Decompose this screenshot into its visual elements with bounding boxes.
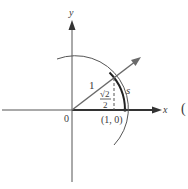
origin-label: 0	[64, 113, 69, 124]
y-axis-arrow-icon	[69, 20, 76, 30]
right-paren: (	[181, 101, 186, 117]
arc-s	[110, 73, 126, 111]
unit-circle-diagram: y x 0 1 √2 2 s (1, 0) (	[0, 0, 188, 189]
point-1-0-label: (1, 0)	[101, 114, 123, 126]
unit-circle-arc	[57, 56, 128, 145]
arc-s-label: s	[126, 84, 130, 96]
y-axis	[69, 20, 76, 182]
radius-label: 1	[89, 79, 95, 91]
sqrt2-numerator: √2	[100, 89, 109, 99]
sqrt2-denominator: 2	[103, 100, 108, 110]
y-axis-label: y	[68, 7, 74, 18]
x-axis-label: x	[162, 104, 168, 115]
point-1-0-marker	[123, 108, 127, 112]
x-axis-arrow-icon	[152, 107, 162, 114]
x-axis	[2, 107, 162, 114]
ray-arrow-icon	[131, 57, 141, 66]
